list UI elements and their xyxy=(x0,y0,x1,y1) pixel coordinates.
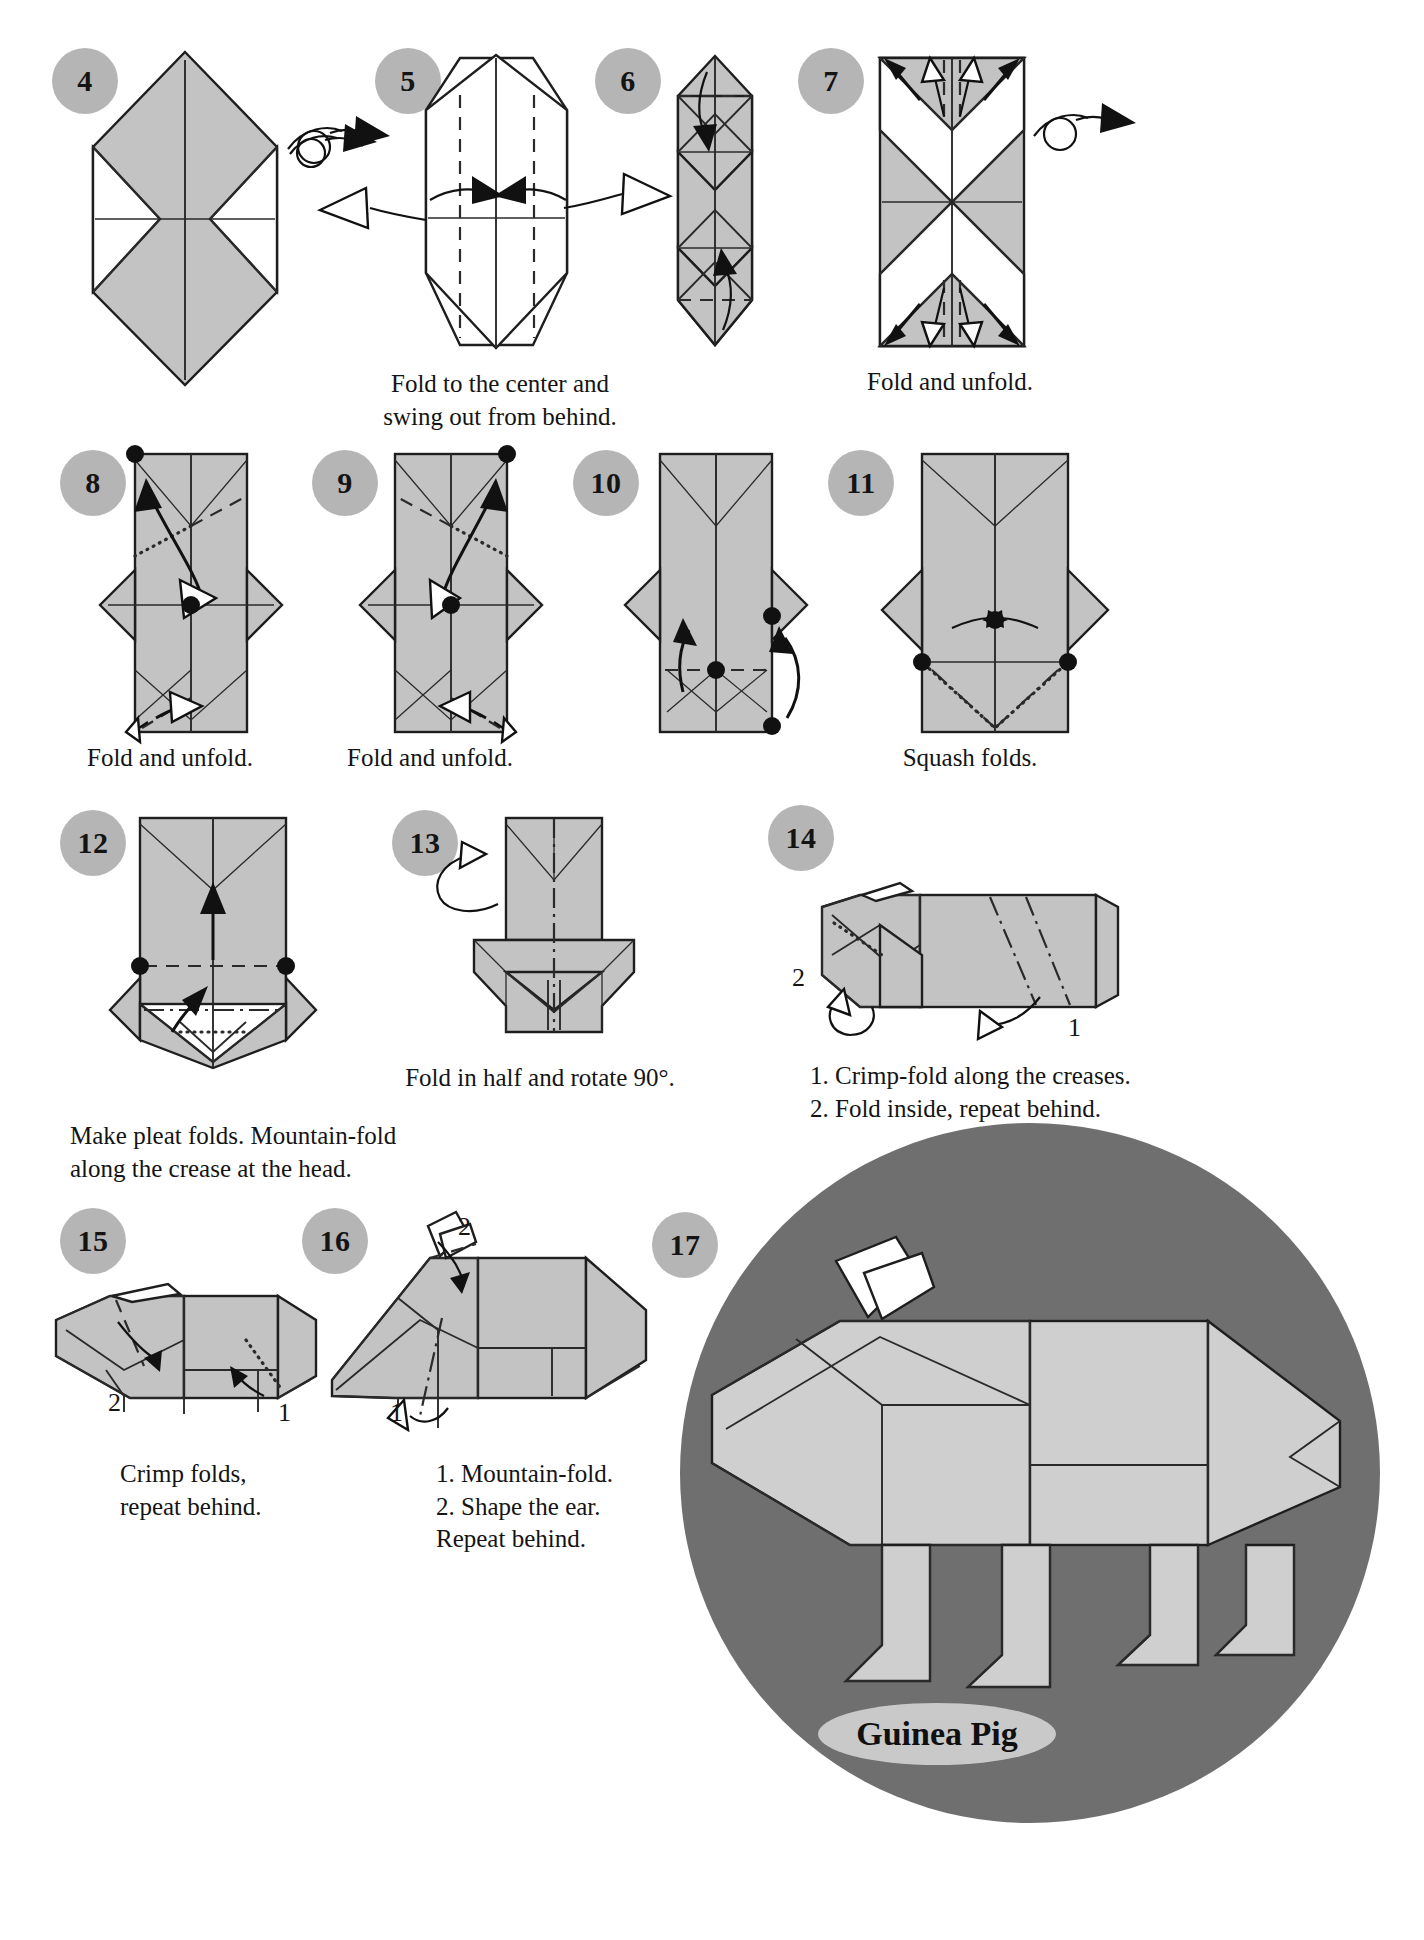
step-12: 12 Make pleat folds. Mountain-fold along… xyxy=(30,800,390,1200)
step-11-diagram xyxy=(810,430,1130,760)
step-9: 9 Fold and unfold. xyxy=(290,430,590,790)
step-16-label-2: 2 xyxy=(458,1212,471,1242)
step-15-label-2: 2 xyxy=(108,1388,121,1418)
step-12-diagram xyxy=(30,800,390,1090)
step-14-label-1: 1 xyxy=(1068,1013,1081,1043)
step-4-diagram xyxy=(0,0,330,420)
turn-over-arrow-7 xyxy=(1026,88,1166,178)
step-7-caption: Fold and unfold. xyxy=(800,366,1100,399)
step-11-caption: Squash folds. xyxy=(830,742,1110,775)
step-8: 8 Fold and unfold. xyxy=(30,430,330,790)
step-7-diagram xyxy=(780,0,1120,400)
step-16-diagram xyxy=(290,1200,690,1450)
step-16-label-1: 1 xyxy=(390,1398,403,1428)
step-8-diagram xyxy=(30,430,330,760)
step-17-final-model xyxy=(650,1225,1410,1785)
swing-out-arrow-left-5 xyxy=(310,180,440,250)
step-badge-17: 17 xyxy=(652,1212,718,1278)
step-7: 7 xyxy=(780,0,1120,430)
step-13-caption: Fold in half and rotate 90°. xyxy=(380,1062,700,1095)
step-13-diagram xyxy=(370,800,710,1060)
step-8-caption: Fold and unfold. xyxy=(30,742,310,775)
step-11: 11 Squash folds. xyxy=(810,430,1130,790)
step-12-caption: Make pleat folds. Mountain-fold along th… xyxy=(70,1120,410,1185)
step-9-diagram xyxy=(290,430,590,760)
step-17: 17 Guinea Pig xyxy=(640,1115,1424,1940)
origami-instruction-page: 4 5 xyxy=(0,0,1424,1940)
step-4: 4 xyxy=(0,0,330,420)
step-16: 16 2 1 1. Mountain-fold. 2. Sha xyxy=(290,1200,690,1600)
step-14-label-2: 2 xyxy=(792,963,805,993)
step-9-caption: Fold and unfold. xyxy=(290,742,570,775)
